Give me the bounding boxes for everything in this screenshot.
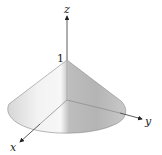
z-axis-label: z (63, 3, 70, 16)
x-axis-label: x (10, 141, 17, 154)
apex-label: 1 (57, 52, 64, 65)
y-axis-label: y (144, 115, 152, 128)
cone-diagram: z 1 x y (0, 0, 162, 155)
